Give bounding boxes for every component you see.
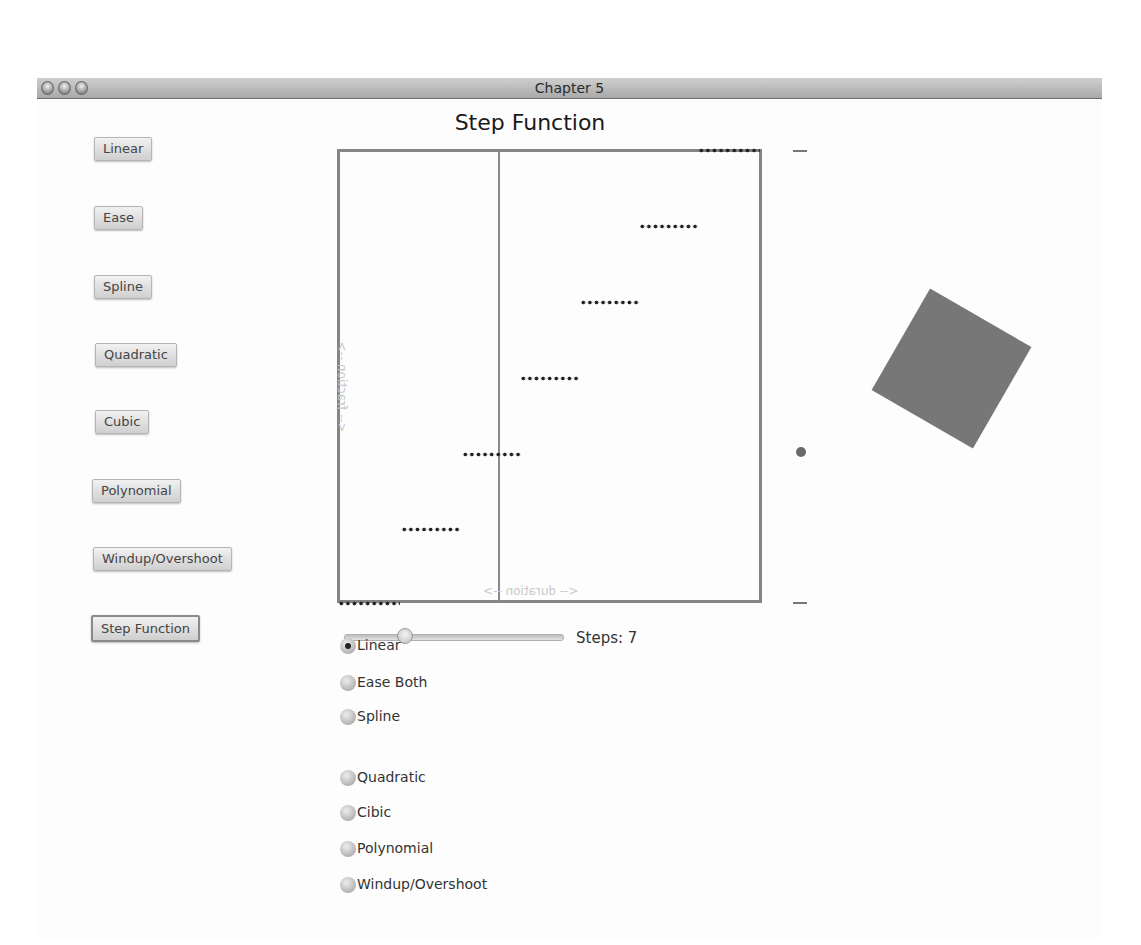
step-segment-7 (698, 148, 760, 153)
title-bar[interactable]: Chapter 5 (37, 78, 1102, 99)
radio-unchecked-icon[interactable] (340, 841, 356, 857)
chart-title: Step Function (400, 110, 660, 135)
polynomial-button[interactable]: Polynomial (92, 479, 181, 503)
spline-button[interactable]: Spline (94, 275, 152, 299)
step-segment-2 (401, 527, 461, 532)
step-function-button[interactable]: Step Function (91, 615, 200, 642)
step-segment-1 (338, 601, 400, 606)
windup-overshoot-button[interactable]: Windup/Overshoot (93, 547, 232, 571)
radio-label: Linear (357, 637, 401, 653)
y-axis-label: <-- fraction --> (335, 341, 349, 432)
progress-line (498, 150, 500, 603)
radio-label: Quadratic (357, 769, 426, 785)
step-segment-3 (462, 452, 521, 457)
ease-button[interactable]: Ease (94, 206, 143, 230)
radio-unchecked-icon[interactable] (340, 805, 356, 821)
step-segment-4 (520, 376, 580, 381)
radio-unchecked-icon[interactable] (340, 877, 356, 893)
radio-unchecked-icon[interactable] (340, 675, 356, 691)
radio-checked-icon[interactable] (340, 638, 356, 654)
step-segment-6 (639, 224, 699, 229)
window-title: Chapter 5 (37, 80, 1102, 96)
linear-button[interactable]: Linear (94, 137, 152, 161)
radio-label: Cibic (357, 804, 391, 820)
quadratic-button[interactable]: Quadratic (95, 343, 177, 367)
radio-label: Ease Both (357, 674, 427, 690)
radio-label: Polynomial (357, 840, 433, 856)
radio-unchecked-icon[interactable] (340, 709, 356, 725)
bottom-tick-mark (793, 602, 807, 604)
cubic-button[interactable]: Cubic (95, 410, 149, 434)
steps-label: Steps: 7 (576, 629, 637, 647)
radio-unchecked-icon[interactable] (340, 770, 356, 786)
x-axis-label: <-- duration --> (483, 584, 579, 598)
animated-dot (796, 447, 806, 457)
step-segment-5 (580, 300, 639, 305)
top-tick-mark (793, 150, 807, 152)
radio-label: Windup/Overshoot (357, 876, 487, 892)
radio-label: Spline (357, 708, 400, 724)
